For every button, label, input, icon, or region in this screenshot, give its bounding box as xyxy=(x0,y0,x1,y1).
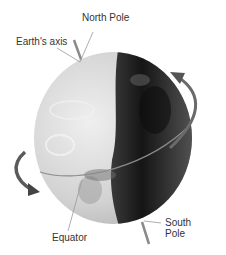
south-pole-label-line2: Pole xyxy=(165,228,185,239)
earths-axis-label: Earth's axis xyxy=(16,36,67,47)
axis-rod-bottom xyxy=(142,222,149,244)
south-pole-leader xyxy=(144,221,161,223)
equator-label: Equator xyxy=(52,232,87,243)
north-pole-label: North Pole xyxy=(82,12,129,23)
south-pole-label-line1: South xyxy=(165,217,191,228)
